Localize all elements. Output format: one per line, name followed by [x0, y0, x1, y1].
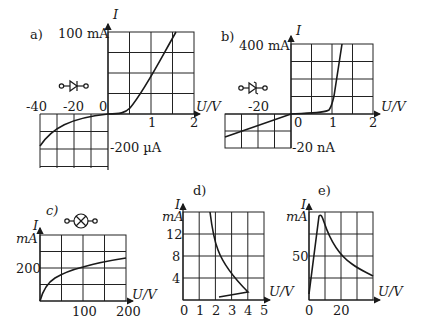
panel-e-axes	[309, 204, 380, 300]
panel-b-label: b)	[221, 30, 234, 43]
panel-b-xtick-2: 2	[369, 116, 377, 129]
panel-d-ytick-8: 8	[172, 250, 180, 263]
panel-d-xtick-1: 1	[196, 304, 204, 317]
panel-e-y-unit: mA	[286, 210, 308, 223]
panel-b-ymax-label: 400 mA	[239, 39, 290, 52]
panel-d-xtick-5: 5	[260, 304, 268, 317]
panel-b-xtick-0: 0	[294, 116, 302, 129]
panel-d-grid	[183, 212, 264, 300]
panel-b-x-axis-label: U/V	[381, 100, 406, 113]
panel-e-x-axis-label: U/V	[378, 285, 403, 298]
panel-b-grid	[225, 44, 373, 148]
panel-a-ymax-label: 100 mA	[58, 27, 109, 40]
lamp-icon	[65, 214, 97, 228]
panel-b-ymin-label: -20 nA	[292, 141, 335, 154]
panel-a-label: a)	[30, 28, 43, 41]
figure-canvas	[0, 0, 422, 336]
panel-c-grid	[40, 235, 126, 301]
panel-d-xtick-0: 0	[180, 304, 188, 317]
panel-c-axes	[40, 228, 133, 301]
panel-a-xtick-0: 0	[99, 100, 107, 113]
panel-d-xtick-2: 2	[212, 304, 220, 317]
panel-d-axes	[183, 204, 270, 300]
panel-b-y-axis-label: I	[296, 24, 301, 37]
panel-c-xtick-100: 100	[72, 305, 97, 318]
panel-e-xtick-0: 0	[305, 304, 313, 317]
panel-b-xtick-neg20: -20	[248, 100, 269, 113]
panel-d-x-axis-label: U/V	[269, 285, 294, 298]
panel-e-xtick-20: 20	[333, 304, 350, 317]
panel-a-xtick-neg20: -20	[63, 100, 84, 113]
panel-b-xtick-1: 1	[329, 116, 337, 129]
panel-d-label: d)	[193, 184, 206, 197]
panel-d-ytick-4: 4	[172, 272, 180, 285]
panel-a-xtick-1: 1	[148, 116, 156, 129]
panel-a-ymin-label: -200 µA	[110, 141, 161, 154]
panel-c-label: c)	[46, 204, 58, 217]
panel-d-ytick-12: 12	[166, 228, 183, 241]
panel-e-ytick-50: 50	[292, 250, 309, 263]
zener-diode-icon	[239, 82, 267, 94]
panel-c-x-axis-label: U/V	[132, 288, 157, 301]
panel-c-xtick-200: 200	[116, 305, 141, 318]
diode-icon	[59, 81, 88, 91]
panel-a-y-axis-label: I	[113, 8, 118, 21]
panel-a-xtick-2: 2	[190, 116, 198, 129]
panel-d-xtick-4: 4	[244, 304, 252, 317]
panel-e-label: e)	[318, 184, 331, 197]
panel-c-ytick-200: 200	[16, 262, 41, 275]
panel-a-xtick-neg40: -40	[26, 100, 47, 113]
panel-c-y-unit: mA	[16, 232, 38, 245]
panel-b-curve	[225, 44, 342, 137]
panel-d-xtick-3: 3	[228, 304, 236, 317]
panel-d-y-unit: mA	[162, 210, 184, 223]
panel-a-x-axis-label: U/V	[196, 100, 221, 113]
